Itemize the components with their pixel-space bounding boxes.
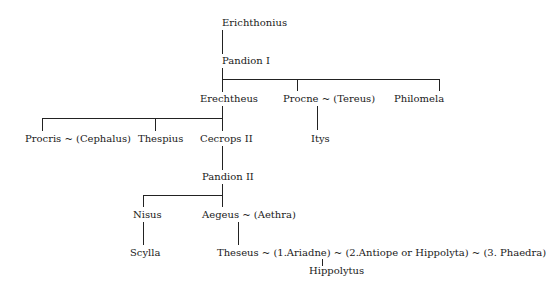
node-procris-cephalus: Procris ~ (Cephalus) [25,133,131,145]
node-nisus: Nisus [133,209,162,221]
node-procne-tereus: Procne ~ (Tereus) [283,93,375,105]
connector-line [155,118,156,131]
connector-line [222,68,223,92]
connector-line [238,222,239,245]
node-erechtheus: Erechtheus [200,93,258,105]
node-philomela: Philomela [394,93,444,105]
node-scylla: Scylla [130,247,160,259]
node-hippolytus: Hippolytus [309,265,364,277]
connector-line [143,222,144,245]
connector-line [317,106,318,130]
connector-line [42,118,223,119]
node-theseus: Theseus ~ (1.Ariadne) ~ (2.Antiope or Hi… [217,247,546,259]
node-itys: Itys [311,133,330,145]
node-erichthonius: Erichthonius [222,17,287,29]
connector-line [143,195,223,196]
node-pandion-ii: Pandion II [202,171,254,183]
connector-line [222,79,440,80]
node-aegeus-aethra: Aegeus ~ (Aethra) [202,209,296,221]
connector-line [222,30,223,54]
connector-line [143,195,144,207]
node-cecrops-ii: Cecrops II [200,133,253,145]
connector-line [297,79,298,91]
connector-line [439,79,440,91]
connector-line [42,118,43,131]
node-thespius: Thespius [138,133,183,145]
connector-line [322,259,323,266]
connector-line [222,146,223,170]
node-pandion-i: Pandion I [222,55,270,67]
